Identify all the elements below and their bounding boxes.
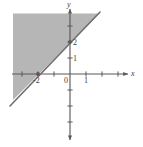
- y-tick-label-one: 1: [73, 55, 77, 63]
- y-intercept-point: [68, 40, 72, 44]
- graph-figure: -2 0 1 2 1 x y: [0, 0, 143, 147]
- x-tick-label-zero: 0: [64, 77, 68, 85]
- x-tick-label-one: 1: [84, 77, 88, 85]
- y-tick-label-two: 2: [73, 39, 77, 47]
- coordinate-plane: [0, 0, 143, 147]
- x-tick-label-neg2: -2: [33, 77, 40, 85]
- shaded-region: [0, 0, 143, 108]
- y-axis-label: y: [67, 1, 71, 9]
- x-axis-label: x: [131, 70, 135, 78]
